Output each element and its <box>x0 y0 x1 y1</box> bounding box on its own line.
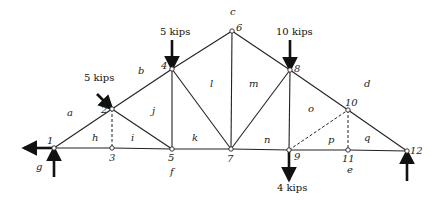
joint-7 <box>229 147 233 151</box>
joint-label: 10 <box>345 97 358 108</box>
joint-11 <box>346 148 350 152</box>
joint-6 <box>230 29 234 33</box>
region-label-m: m <box>249 78 258 89</box>
member-11-12 <box>348 150 407 151</box>
joint-5 <box>170 147 174 151</box>
member-2-5 <box>112 109 172 149</box>
joint-label: 4 <box>160 60 167 71</box>
region-label-a: a <box>67 107 73 118</box>
region-label-g: g <box>36 161 42 172</box>
joint-label: 9 <box>294 151 301 162</box>
load-label: 4 kips <box>277 182 307 193</box>
joint-3 <box>110 146 114 150</box>
region-label-j: j <box>150 105 155 116</box>
load-label: 5 kips <box>84 72 114 83</box>
truss-members <box>54 31 407 151</box>
joint-label: 6 <box>236 22 243 33</box>
region-label-e: e <box>347 164 353 175</box>
joint-1 <box>52 146 56 150</box>
joint-8 <box>288 68 292 72</box>
region-label-q: q <box>364 132 370 143</box>
joint-label: 3 <box>109 152 115 163</box>
region-label-h: h <box>92 132 98 143</box>
joint-label: 12 <box>410 145 423 156</box>
member-3-5 <box>112 148 172 149</box>
region-label-n: n <box>264 134 270 145</box>
joint-2 <box>110 107 114 111</box>
region-label-o: o <box>308 103 314 114</box>
joint-4 <box>170 67 174 71</box>
load-label: 5 kips <box>160 26 190 37</box>
joint-9 <box>287 148 291 152</box>
region-label-d: d <box>364 78 370 89</box>
member-4-7 <box>172 69 231 149</box>
joint-label: 2 <box>100 104 107 115</box>
region-label-f: f <box>169 166 176 177</box>
joint-label: 8 <box>294 63 300 74</box>
joint-10 <box>346 108 350 112</box>
region-label-p: p <box>328 134 335 145</box>
member-6-7 <box>231 31 232 149</box>
region-label-k: k <box>192 132 198 143</box>
truss-joints <box>52 29 409 153</box>
truss-diagram: 5 kips5 kips10 kips4 kips123456789101112… <box>0 0 444 201</box>
member-8-10 <box>290 70 348 110</box>
truss-labels: 5 kips5 kips10 kips4 kips123456789101112… <box>36 6 423 193</box>
region-label-b: b <box>138 65 144 76</box>
member-8-9 <box>289 70 290 150</box>
joint-12 <box>405 149 409 153</box>
region-label-i: i <box>131 132 134 143</box>
joint-label: 5 <box>168 152 174 163</box>
joint-label: 11 <box>342 153 355 164</box>
member-10-12 <box>348 110 407 151</box>
region-label-c: c <box>230 6 236 17</box>
region-label-l: l <box>210 78 213 89</box>
zero-member-9-10 <box>289 110 348 150</box>
load-label: 10 kips <box>276 26 313 37</box>
member-8-7 <box>231 70 290 149</box>
joint-label: 7 <box>227 153 234 164</box>
member-7-9 <box>231 149 289 150</box>
joint-label: 1 <box>47 135 53 146</box>
